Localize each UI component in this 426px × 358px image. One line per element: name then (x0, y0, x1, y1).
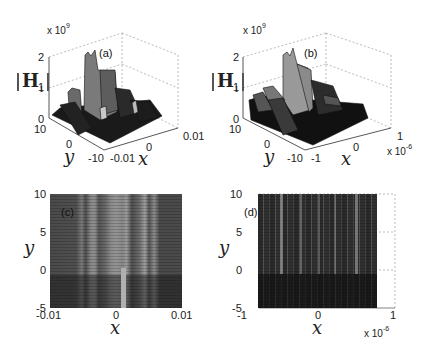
z-multiplier-b: x 109 (243, 24, 266, 36)
abs-bar-icon (47, 73, 49, 91)
x-axis-label-c: x (110, 319, 120, 337)
panel-label-a: (a) (99, 48, 112, 59)
z-tick-b-2: 2 (233, 52, 239, 63)
y-tick-d-5: 5 (236, 227, 242, 238)
x-tick-b-1: 1 (397, 131, 403, 142)
bright-stripe (300, 194, 302, 274)
lower-dark-region (258, 274, 377, 308)
bright-stripe (121, 268, 126, 308)
x-tick-b-0: 0 (353, 142, 359, 153)
z-tick-a-2: 2 (38, 52, 44, 63)
y-tick-c-10: 10 (34, 189, 46, 200)
panel-a-surface: x 109 (a) 2 1 0 H1 10 0 -10 y -0.01 0 0.… (0, 0, 213, 179)
x-tick-a-neg001: -0.01 (110, 153, 135, 164)
y-tick-a-neg10: -10 (88, 153, 104, 164)
bright-stripe (334, 194, 336, 274)
y-axis-label-d: y (219, 239, 229, 257)
bright-stripe (355, 194, 358, 274)
x-axis-label-b: x (341, 150, 351, 168)
x-tick-d-neg1: -1 (237, 310, 247, 321)
y-axis-label-c: y (24, 239, 34, 257)
panel-label-c: (c) (61, 207, 74, 218)
y-axis-label-a: y (64, 148, 74, 166)
y-tick-b-10: 10 (229, 124, 241, 135)
y-tick-b-neg10: -10 (287, 153, 303, 164)
z-axis-label-a: H1 (14, 72, 52, 94)
panel-label-b: (b) (304, 48, 317, 59)
lower-dark-region (50, 275, 182, 308)
y-tick-d-0: 0 (236, 265, 242, 276)
panel-label-d: (d) (244, 207, 257, 218)
y-tick-c-5: 5 (40, 227, 46, 238)
panel-d-heatmap: (d) 10 5 0 -5 y -1 0 1 x x 10-6 (213, 179, 426, 358)
z-axis-label-b: H1 (209, 72, 247, 94)
bright-stripe (318, 194, 320, 274)
abs-bar-icon (242, 73, 244, 91)
y-tick-c-0: 0 (40, 265, 46, 276)
y-tick-d-10: 10 (230, 189, 242, 200)
y-tick-a-10: 10 (34, 124, 46, 135)
y-axis-label-b: y (264, 148, 274, 166)
x-tick-a-001: 0.01 (183, 131, 204, 142)
x-multiplier-b: x 10-6 (387, 145, 412, 157)
abs-bar-icon (212, 73, 214, 91)
x-multiplier-d: x 10-6 (364, 327, 389, 339)
x-axis-label-a: x (138, 150, 148, 168)
heatmap-d (258, 194, 377, 308)
x-tick-c-001: 0.01 (171, 310, 192, 321)
z-multiplier-a: x 109 (47, 24, 70, 36)
abs-bar-icon (17, 73, 19, 91)
x-tick-c-neg001: -0.01 (36, 310, 61, 321)
x-tick-b-neg1: -1 (311, 153, 321, 164)
x-tick-d-1: 1 (390, 310, 396, 321)
panel-b-surface: x 109 (b) 2 1 0 H1 10 0 -10 y -1 0 1 x x… (213, 0, 426, 179)
bright-stripe (280, 194, 283, 274)
panel-c-heatmap: (c) 10 5 0 -5 y -0.01 0 0.01 x (0, 179, 213, 358)
x-axis-label-d: x (312, 319, 322, 337)
